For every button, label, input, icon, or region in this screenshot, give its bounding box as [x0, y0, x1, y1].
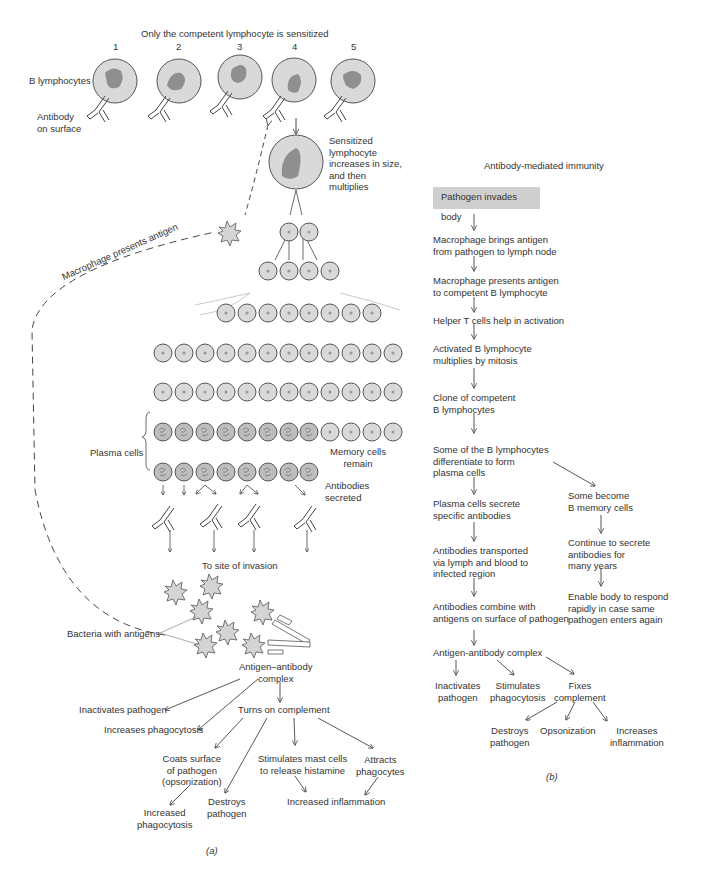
lymphocyte-number-5: 5: [351, 41, 356, 53]
complement-opsonization: Opsonization: [540, 725, 595, 737]
complement-inflammation: Increases inflammation: [610, 725, 664, 748]
b-lymphocyte-row: [87, 55, 375, 122]
destroys-pathogen-label: Destroys pathogen: [207, 796, 247, 819]
outcome-fixes-complement: Fixes complement: [554, 680, 606, 703]
memory-cells-label: Memory cells remain: [330, 446, 386, 469]
memory-branch-1: Some become B memory cells: [568, 490, 633, 513]
clone-tree: [195, 190, 400, 315]
increased-inflammation-label: Increased inflammation: [287, 796, 385, 808]
outcome-stimulates: Stimulates phagocytosis: [490, 680, 545, 703]
flow-step-1: Macrophage brings antigen from pathogen …: [433, 234, 557, 257]
lymphocyte-number-2: 2: [176, 41, 181, 53]
antibody-on-surface-label: Antibody on surface: [37, 111, 81, 134]
flow-step-8: Antibodies transported via lymph and blo…: [433, 545, 528, 580]
flow-step-6: Some of the B lymphocytes differentiate …: [433, 444, 549, 479]
flow-step-7: Plasma cells secrete specific antibodies: [433, 498, 520, 521]
lymphocyte-number-4: 4: [292, 41, 297, 53]
antibodies-secreted-label: Antibodies secreted: [325, 480, 369, 503]
complex-label: Antigen–antibody complex: [239, 661, 312, 684]
outcome-inactivates: Inactivates pathogen: [435, 680, 480, 703]
flow-step-10: Antigen-antibody complex: [433, 647, 542, 659]
flow-step-3: Helper T cells help in activation: [433, 315, 564, 327]
flow-step-4: Activated B lymphocyte multiplies by mit…: [433, 343, 532, 366]
panel-b-caption: (b): [546, 771, 558, 783]
memory-branch-3: Enable body to respond rapidly in case s…: [568, 591, 668, 626]
sensitized-label: Sensitized lymphocyte increases in size,…: [329, 135, 402, 193]
memory-branch-2: Continue to secrete antibodies for many …: [568, 537, 650, 572]
panel-a-title: Only the competent lymphocyte is sensiti…: [141, 28, 328, 40]
lymphocyte-number-1: 1: [113, 41, 118, 53]
complement-destroys: Destroys pathogen: [490, 725, 530, 748]
panel-b-title: Antibody-mediated immunity: [484, 160, 604, 172]
panel-a-caption: (a): [206, 845, 218, 857]
flow-step-2: Macrophage presents antigen to competent…: [433, 275, 559, 298]
attracts-phagocytes-label: Attracts phagocytes: [356, 754, 405, 777]
pathogen-invades-box: Pathogen invades body: [433, 187, 540, 209]
increased-phagocytosis-label: Increased phagocytosis: [137, 807, 192, 830]
b-lymphocytes-label: B lymphocytes: [29, 75, 91, 87]
to-site-label: To site of invasion: [202, 560, 278, 572]
stimulates-mast-cells-label: Stimulates mast cells to release histami…: [258, 753, 347, 776]
lymphocyte-number-3: 3: [237, 41, 242, 53]
turns-on-complement-label: Turns on complement: [238, 704, 330, 716]
coats-surface-label: Coats surface of pathogen (opsonization): [162, 753, 222, 788]
flow-step-5: Clone of competent B lymphocytes: [433, 392, 515, 415]
inactivates-pathogen-label: Inactivates pathogen: [79, 704, 167, 716]
plasma-cells-label: Plasma cells: [90, 447, 143, 459]
flow-step-9: Antibodies combine with antigens on surf…: [433, 601, 569, 624]
increases-phagocytosis-label: Increases phagocytosis: [104, 724, 203, 736]
bacteria-label: Bacteria with antigens: [67, 628, 160, 640]
